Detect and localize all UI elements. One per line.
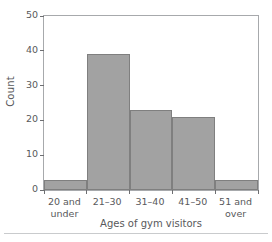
histogram-figure: Count 01020304050 20 andunder21–3031–404… <box>0 0 272 242</box>
y-tick-mark <box>40 120 44 121</box>
x-axis-title: Ages of gym visitors <box>43 218 259 229</box>
footer-divider <box>4 233 268 234</box>
plot-area: 01020304050 <box>43 15 259 191</box>
bar <box>172 117 215 190</box>
y-tick-label: 20 <box>26 113 38 124</box>
x-tick-label: 41–50 <box>171 196 214 208</box>
x-tick-mark <box>215 190 216 194</box>
x-tick-mark <box>86 190 87 194</box>
y-tick-label: 10 <box>26 148 38 159</box>
x-tick-label: 51 andover <box>214 196 257 219</box>
bar <box>215 180 258 190</box>
bar <box>87 54 130 190</box>
bar <box>44 180 87 190</box>
y-tick-mark <box>40 155 44 156</box>
y-tick-label: 50 <box>26 9 38 20</box>
x-tick-mark <box>172 190 173 194</box>
x-tick-label: 21–30 <box>86 196 129 208</box>
y-tick-label: 40 <box>26 44 38 55</box>
bar <box>130 110 173 190</box>
x-tick-label: 20 andunder <box>43 196 86 219</box>
y-tick-label: 0 <box>32 183 38 194</box>
y-tick-mark <box>40 85 44 86</box>
bars-group <box>44 16 258 190</box>
x-tick-label: 31–40 <box>129 196 172 208</box>
x-tick-mark <box>129 190 130 194</box>
y-tick-mark <box>40 16 44 17</box>
y-axis-title: Count <box>5 62 16 122</box>
y-tick-mark <box>40 50 44 51</box>
x-tick-mark <box>44 190 45 194</box>
x-tick-mark <box>258 190 259 194</box>
y-tick-label: 30 <box>26 79 38 90</box>
